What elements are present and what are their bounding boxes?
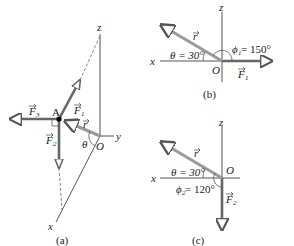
z-label-c: z xyxy=(218,116,224,128)
x-label-b: x xyxy=(149,55,155,67)
f2-extension-dashed xyxy=(59,168,62,210)
svg-text:r: r xyxy=(194,147,199,159)
origin-label-b: O xyxy=(212,64,220,76)
r-label-c: r xyxy=(194,147,200,159)
svg-text:r: r xyxy=(193,30,198,42)
phi-label-b: ϕ 1 = 150° xyxy=(232,43,271,57)
f1-label-b: F 1 xyxy=(237,67,249,82)
theta-label-b: θ = 30° xyxy=(170,49,204,61)
origin-label-c: O xyxy=(226,164,234,176)
torque-diagram: z y x O A θ F 1 F 3 F 2 xyxy=(0,0,294,246)
svg-text:1: 1 xyxy=(81,110,85,118)
x-label-c: x xyxy=(150,172,156,184)
r-label-b: r xyxy=(193,30,199,42)
theta-label-c: θ = 30° xyxy=(171,166,205,178)
z-label-b: z xyxy=(218,1,224,13)
svg-text:2: 2 xyxy=(233,199,237,207)
caption-c: (c) xyxy=(192,234,205,246)
point-a-label: A xyxy=(52,106,60,118)
phi-label-c: ϕ 2 = 120° xyxy=(176,183,215,197)
panel-b: z x O θ = 30° ϕ 1 = 150° r F 1 (b) xyxy=(149,1,272,101)
f3-label-a: F 3 xyxy=(28,104,40,119)
panel-a: z y x O A θ F 1 F 3 F 2 xyxy=(10,21,121,246)
z-label-a: z xyxy=(96,21,102,33)
x-axis-a xyxy=(56,136,100,222)
svg-text:1: 1 xyxy=(245,74,249,82)
x-label-a: x xyxy=(47,220,53,232)
f2-label-a: F 2 xyxy=(45,133,57,148)
caption-a: (a) xyxy=(56,234,69,246)
point-a-dot xyxy=(56,116,61,121)
panel-c: z x O θ = 30° ϕ 2 = 120° r F 2 (c) xyxy=(150,116,240,246)
caption-b: (b) xyxy=(203,88,216,101)
y-label-a: y xyxy=(115,130,121,142)
svg-text:3: 3 xyxy=(35,111,40,119)
f1-extension-dashed xyxy=(80,36,100,80)
svg-text:r: r xyxy=(83,118,88,130)
r-label-a: r xyxy=(83,118,89,130)
f2-label-c: F 2 xyxy=(225,192,237,207)
svg-text:= 150°: = 150° xyxy=(241,43,271,55)
svg-text:2: 2 xyxy=(53,140,57,148)
origin-label-a: O xyxy=(96,140,104,152)
svg-text:= 120°: = 120° xyxy=(185,183,215,195)
f1-label-a: F 1 xyxy=(73,103,85,118)
theta-label-a: θ xyxy=(82,138,88,150)
